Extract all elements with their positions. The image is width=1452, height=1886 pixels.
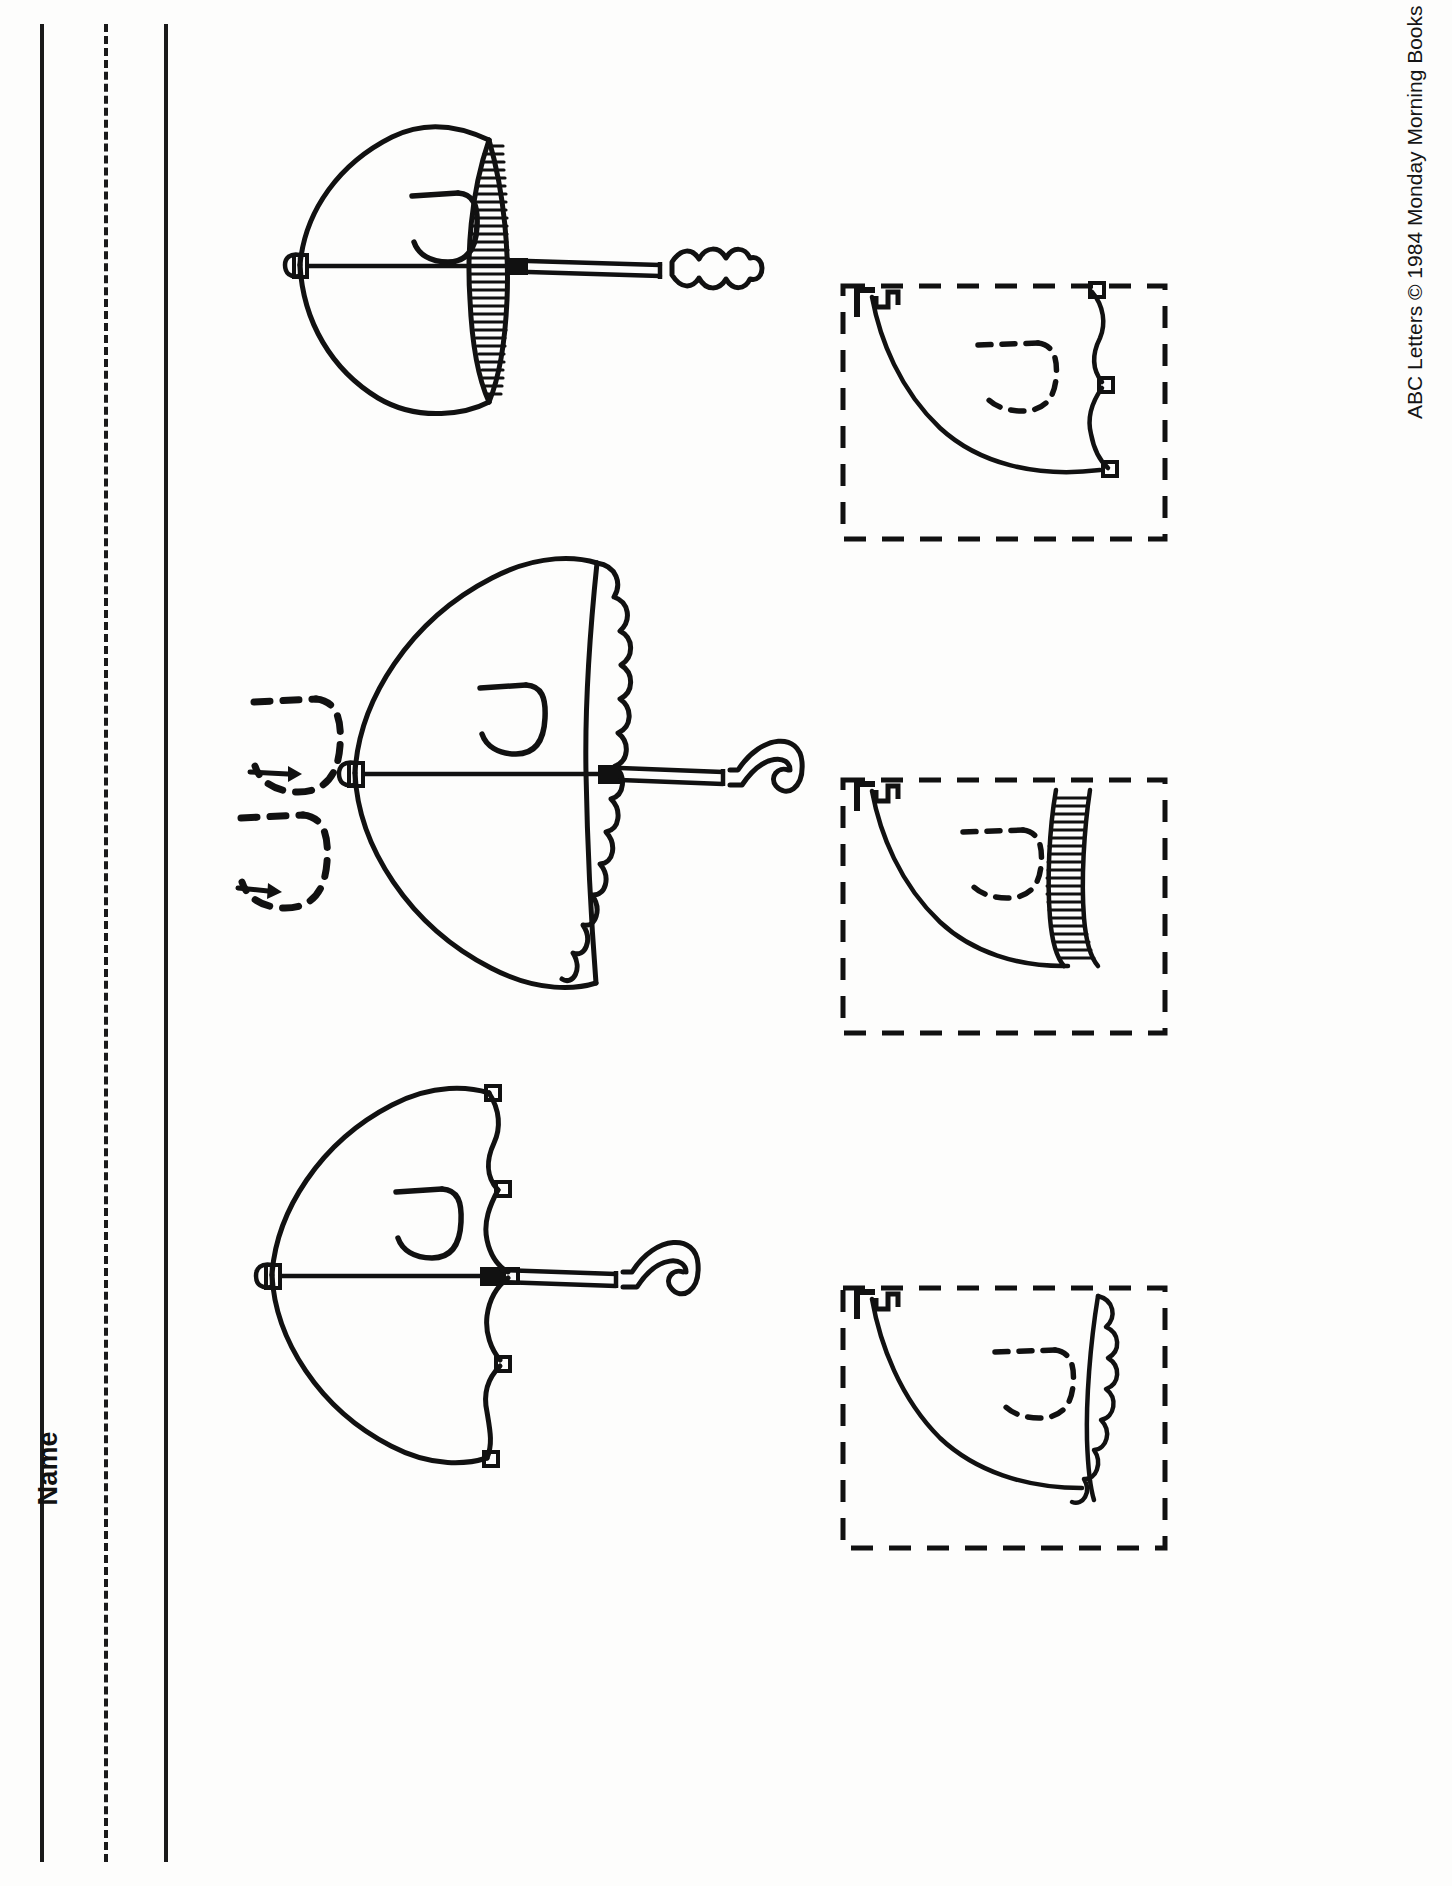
practice-strokes xyxy=(238,699,340,908)
practice-letter-j-2 xyxy=(241,815,327,908)
umbrella-bottom-handle xyxy=(623,1242,698,1293)
cut-box-top xyxy=(843,283,1165,539)
copyright-notice: ABC Letters © 1984 Monday Morning Books xyxy=(1403,0,1427,419)
practice-letter-j-1 xyxy=(254,699,340,792)
umbrella-middle xyxy=(339,558,802,987)
umbrella-middle-scalloped-edge xyxy=(562,563,631,983)
umbrella-top-striped-edge xyxy=(469,140,508,402)
cut-box-middle xyxy=(843,780,1165,1033)
umbrella-top-letter-j xyxy=(412,193,477,262)
umbrella-bottom-letter-j xyxy=(396,1189,461,1258)
umbrella-bottom-scalloped-edge xyxy=(484,1086,518,1466)
cut-box-bottom-letter-j xyxy=(995,1350,1073,1418)
cut-box-middle-letter-j xyxy=(963,830,1041,898)
cut-box-bottom xyxy=(843,1288,1165,1548)
name-label: Name xyxy=(33,1366,64,1506)
umbrella-middle-handle xyxy=(730,741,802,791)
name-line-middle-dashed xyxy=(104,24,108,1862)
name-line-bottom-solid xyxy=(164,24,168,1862)
umbrella-top xyxy=(285,127,762,414)
cut-box-middle-striped-edge xyxy=(1047,790,1098,966)
worksheet-artwork xyxy=(0,0,1452,1886)
practice-arrow-2 xyxy=(238,883,282,899)
name-line-top-solid xyxy=(40,24,44,1862)
umbrella-bottom xyxy=(256,1086,698,1466)
cut-box-top-letter-j xyxy=(978,343,1056,411)
worksheet-page: Name ABC Letters © 1984 Monday Morning B… xyxy=(0,0,1452,1886)
umbrella-middle-letter-j xyxy=(480,685,545,754)
umbrella-top-handle xyxy=(672,249,762,288)
practice-arrow-1 xyxy=(250,766,302,782)
